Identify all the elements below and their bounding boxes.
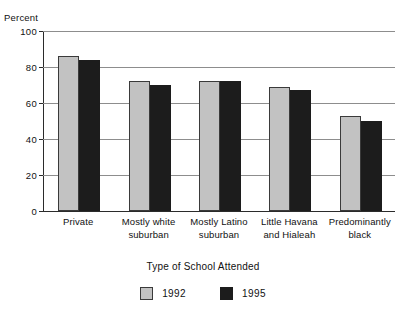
legend-item-1995[interactable]: 1995 — [220, 287, 266, 300]
bar-1992-2 — [199, 81, 220, 211]
legend-swatch-icon — [140, 287, 153, 300]
x-axis-label-line: Predominantly — [319, 216, 401, 229]
bar-chart: Percent 020406080100 PrivateMostly white… — [0, 0, 406, 321]
bar-1995-3 — [290, 90, 311, 211]
y-tick-label: 60 — [26, 98, 37, 109]
y-tick-label: 40 — [26, 134, 37, 145]
bar-1995-1 — [150, 85, 171, 211]
x-axis-label-line: black — [319, 229, 401, 242]
y-tick-label: 20 — [26, 170, 37, 181]
bar-1995-0 — [79, 60, 100, 211]
chart-legend: 19921995 — [0, 287, 406, 300]
bars-group — [43, 31, 395, 212]
bar-1995-2 — [220, 81, 241, 211]
plot-area: 020406080100 — [43, 31, 395, 211]
bar-1995-4 — [361, 121, 382, 211]
legend-label: 1992 — [162, 288, 186, 299]
legend-item-1992[interactable]: 1992 — [140, 287, 186, 300]
y-tick-label: 100 — [20, 26, 37, 37]
bar-1992-1 — [129, 81, 150, 211]
bar-1992-3 — [269, 87, 290, 211]
bar-1992-0 — [58, 56, 79, 211]
y-tick-label: 0 — [31, 206, 37, 217]
x-axis-title: Type of School Attended — [0, 261, 406, 272]
y-tick-label: 80 — [26, 62, 37, 73]
y-axis-title: Percent — [4, 12, 38, 23]
x-axis-category-labels: PrivateMostly whitesuburbanMostly Latino… — [43, 216, 395, 256]
legend-label: 1995 — [242, 288, 266, 299]
x-axis-label-4: Predominantlyblack — [319, 216, 401, 241]
legend-swatch-icon — [220, 287, 233, 300]
bar-1992-4 — [340, 116, 361, 211]
